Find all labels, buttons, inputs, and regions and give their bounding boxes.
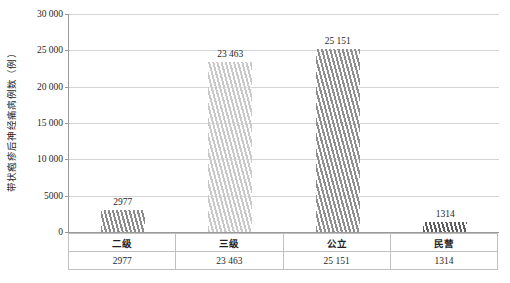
plot-area: 0500010 00015 00020 00025 00030 000 2977… (68, 14, 498, 232)
bar-value-label: 25 151 (325, 36, 351, 46)
bar-value-label: 23 463 (217, 49, 243, 59)
y-axis-title: 带状疱疹后神经痛病例数（例） (0, 0, 22, 240)
bar: 25 151 (316, 49, 360, 232)
bar-value-label: 1314 (436, 209, 455, 219)
table-cell-category: 二级 (69, 234, 176, 252)
bar: 2977 (101, 210, 145, 232)
table-cell-value: 23 463 (176, 252, 283, 270)
y-axis-tick (65, 50, 69, 51)
bar: 23 463 (208, 62, 252, 232)
gridline (69, 123, 499, 124)
table-cell-value: 1314 (390, 252, 497, 270)
table-cell-category: 民营 (390, 234, 497, 252)
bar: 1314 (423, 222, 467, 232)
y-axis-tick-label: 25 000 (37, 45, 63, 55)
table-cell-value: 25 151 (283, 252, 390, 270)
y-axis-tick (65, 87, 69, 88)
gridline (69, 14, 499, 15)
gridline (69, 50, 499, 51)
table-cell-value: 2977 (69, 252, 176, 270)
y-axis-tick-label: 15 000 (37, 118, 63, 128)
y-axis-tick-label: 10 000 (37, 154, 63, 164)
y-axis-tick (65, 159, 69, 160)
chart-figure: 带状疱疹后神经痛病例数（例） 0500010 00015 00020 00025… (0, 0, 510, 283)
table-row-values: 297723 46325 1511314 (69, 252, 498, 270)
bar-value-label: 2977 (113, 197, 132, 207)
gridline (69, 196, 499, 197)
y-axis-tick-label: 0 (58, 227, 63, 237)
table-row-categories: 二级三级公立民营 (69, 234, 498, 252)
y-axis-tick (65, 123, 69, 124)
y-axis-tick-label: 30 000 (37, 9, 63, 19)
table-cell-category: 公立 (283, 234, 390, 252)
y-axis-tick-label: 20 000 (37, 82, 63, 92)
data-table: 二级三级公立民营 297723 46325 1511314 (68, 233, 498, 270)
y-axis-title-label: 带状疱疹后神经痛病例数（例） (4, 48, 18, 192)
gridline (69, 159, 499, 160)
gridline (69, 87, 499, 88)
table-cell-category: 三级 (176, 234, 283, 252)
y-axis-tick (65, 196, 69, 197)
y-axis-tick-label: 5000 (44, 191, 63, 201)
y-axis-tick (65, 14, 69, 15)
